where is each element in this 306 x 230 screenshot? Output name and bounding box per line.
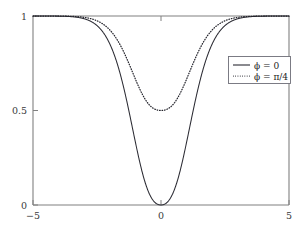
figure-container: 1 0.5 0 −5 0 5 ϕ = 0 ϕ = π/4 <box>0 0 306 230</box>
ytick-label-0_5: 0.5 <box>12 105 27 116</box>
tick-marks <box>33 16 289 205</box>
chart-plot: 1 0.5 0 −5 0 5 ϕ = 0 ϕ = π/4 <box>0 0 306 230</box>
xtick-label-0: 0 <box>158 210 164 221</box>
legend-label-0: ϕ = 0 <box>254 61 279 71</box>
data-curves <box>33 16 289 205</box>
legend-label-1: ϕ = π/4 <box>254 72 288 82</box>
ytick-label-1: 1 <box>21 11 27 22</box>
ytick-label-0: 0 <box>21 200 27 211</box>
legend: ϕ = 0 ϕ = π/4 <box>229 57 291 84</box>
xtick-label-5: 5 <box>286 210 292 221</box>
curve-phi-0 <box>33 16 289 205</box>
axes-frame <box>33 16 289 205</box>
xtick-label-minus5: −5 <box>26 210 40 221</box>
